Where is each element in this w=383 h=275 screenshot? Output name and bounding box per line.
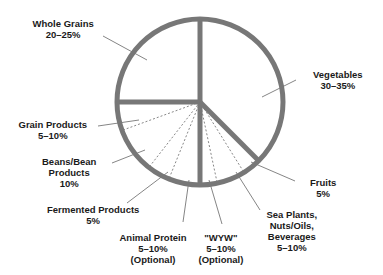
- slice-label-value: Products: [42, 167, 96, 178]
- slice-label-value: Beverages: [267, 231, 318, 242]
- slice-label-name: Vegetables: [313, 69, 363, 80]
- slice-label-value: 30–35%: [313, 80, 363, 91]
- dashed-divider: [170, 102, 200, 177]
- leader-line: [103, 36, 147, 60]
- slice-label-name: Fruits: [310, 177, 336, 188]
- slice-label: Fruits5%: [310, 177, 336, 199]
- slice-label-value: 5%: [310, 188, 336, 199]
- slice-label-value: 5–10%: [199, 243, 244, 254]
- slice-label-value: Nuts/Oils,: [267, 220, 318, 231]
- solid-divider: [200, 102, 259, 161]
- slice-label-value: 10%: [42, 178, 96, 189]
- slice-label: Animal Protein5–10%(Optional): [120, 232, 187, 265]
- slice-label: Vegetables30–35%: [313, 69, 363, 91]
- slice-label: Beans/BeanProducts10%: [42, 156, 96, 189]
- dashed-divider: [150, 102, 200, 166]
- slice-label-name: Beans/Bean: [42, 156, 96, 167]
- slice-label: Grain Products5–10%: [19, 119, 88, 141]
- slice-label: "WYW"5–10%(Optional): [199, 232, 244, 265]
- slice-label-name: Fermented Products: [47, 204, 139, 215]
- slice-label: Sea Plants,Nuts/Oils,Beverages5–10%: [267, 209, 318, 253]
- slice-label-name: Grain Products: [19, 119, 88, 130]
- slice-label: Whole Grains20–25%: [33, 18, 94, 40]
- slice-label-name: Whole Grains: [33, 18, 94, 29]
- slice-label-name: Sea Plants,: [267, 209, 318, 220]
- slice-label-value: 5%: [47, 215, 139, 226]
- slice-label-value: 5–10%: [267, 242, 318, 253]
- slice-label-name: "WYW": [199, 232, 244, 243]
- slice-label-value: 5–10%: [120, 243, 187, 254]
- slice-label-name: Animal Protein: [120, 232, 187, 243]
- slice-label-value: 5–10%: [19, 130, 88, 141]
- slice-label-value: (Optional): [199, 254, 244, 265]
- slice-label-value: 20–25%: [33, 29, 94, 40]
- slice-label-value: (Optional): [120, 254, 187, 265]
- slice-label: Fermented Products5%: [47, 204, 139, 226]
